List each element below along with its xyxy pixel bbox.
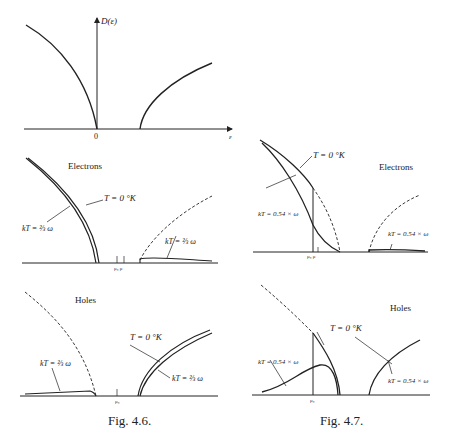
fig47-electrons-title: Electrons [379, 162, 413, 172]
fig47-caption: Fig. 4.7. [320, 413, 363, 429]
origin-label: 0 [94, 132, 98, 141]
dos-plot [24, 18, 232, 129]
figure-canvas: D(ε) 0 ε Electrons T = 0 °K kT = ⅔ ω kT … [0, 0, 450, 446]
fig46-holes-title: Holes [75, 295, 96, 305]
fig46-electrons-kT-right-label: kT = ⅔ ω [165, 237, 196, 246]
x-axis-label: ε [229, 133, 232, 141]
y-axis-label: D(ε) [100, 16, 117, 26]
fig47-holes-kT-left-label: kT = 0.54 × ω [258, 358, 299, 366]
fig46-electrons-title: Electrons [68, 161, 102, 171]
fig46-caption: Fig. 4.6. [108, 413, 151, 429]
fig46-holes-tick-label: μ₀ [115, 399, 120, 404]
fig46-holes-kT-right-label: kT = ⅔ ω [172, 374, 203, 383]
fig46-electrons-plot [22, 158, 218, 263]
fig46-electrons-T0-label: T = 0 °K [104, 193, 137, 203]
fig47-electrons-T0-label: T = 0 °K [313, 150, 346, 160]
fig46-electrons-tick-labels: μ₀ μ [114, 266, 123, 271]
fig47-holes-T0-label: T = 0 °K [330, 323, 363, 333]
fig47-electrons-tick-labels: μ₀ μ [307, 254, 316, 259]
fig47-electrons-kT-label: kT = 0.54 × ω [258, 210, 299, 218]
fig47-holes-kT-right-label: kT = 0.54 × ω [388, 377, 429, 385]
fig47-holes-title: Holes [390, 303, 411, 313]
fig46-holes-T0-label: T = 0 °K [130, 332, 163, 342]
fig47-holes-tick-label: μ₀ [310, 398, 315, 403]
fig46-electrons-kT-label: kT = ⅔ ω [22, 224, 53, 233]
fig46-holes-kT-left-label: kT = ⅔ ω [40, 359, 71, 368]
fig47-electrons-kT-right-label: kT = 0.54 × ω [388, 230, 429, 238]
